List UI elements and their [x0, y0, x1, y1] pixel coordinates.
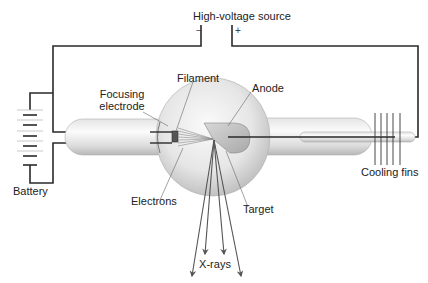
battery-icon [17, 110, 43, 165]
anode-label: Anode [252, 82, 284, 94]
electrons-label: Electrons [131, 195, 177, 207]
target-label: Target [243, 203, 274, 215]
filament-label: Filament [177, 72, 219, 84]
cooling-fins-label: Cooling fins [361, 166, 419, 178]
x-rays-label: X-rays [199, 258, 231, 270]
battery-label: Battery [13, 185, 48, 197]
battery-top-wire [30, 93, 53, 110]
high-voltage-source-label: High-voltage source [193, 10, 291, 22]
focusing-electrode-label-line1: Focusing [100, 88, 145, 100]
filament-block [172, 131, 178, 142]
x-ray-tube-diagram: High-voltage source − + Battery [0, 0, 428, 283]
positive-terminal-symbol: + [235, 25, 241, 36]
focusing-electrode-label-line2: electrode [99, 100, 144, 112]
